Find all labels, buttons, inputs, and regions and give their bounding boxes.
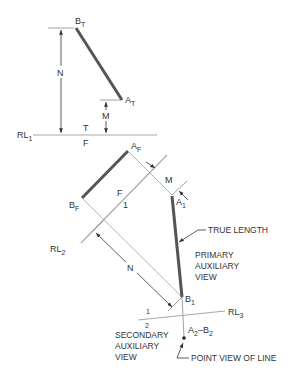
secondary-view-label-1: SECONDARY xyxy=(115,330,169,340)
extension-line-rl2 xyxy=(92,220,104,232)
rl1-label: RL1 xyxy=(17,130,33,142)
rl3-label: RL3 xyxy=(228,307,244,319)
extension-line-b1 xyxy=(168,297,182,311)
point-at-label: AT xyxy=(125,95,136,107)
point-view-dot xyxy=(182,336,186,340)
secondary-view-label-3: VIEW xyxy=(115,352,137,362)
primary-view-label-2: AUXILIARY xyxy=(195,261,240,271)
dimension-n-label: N xyxy=(57,68,64,78)
point-a1-label: A1 xyxy=(176,197,186,209)
auxiliary-view-diagram: N M BT AT RL1 T F AF BF RL2 F 1 M N A1 B xyxy=(0,0,291,377)
primary-view-label-1: PRIMARY xyxy=(195,250,234,260)
extension-line-a1 xyxy=(172,181,187,195)
point-af-label: AF xyxy=(131,141,141,153)
top-view: N M BT AT xyxy=(48,16,136,133)
dimension-m-aux-label: M xyxy=(165,175,173,185)
dimension-m-label: M xyxy=(102,111,110,121)
line-ab-true-length xyxy=(172,196,182,297)
point-a2b2-label: A2–B2 xyxy=(188,325,213,337)
rl2-above-label: F xyxy=(117,188,123,198)
projector-b xyxy=(82,198,182,297)
point-b1-label: B1 xyxy=(185,294,195,306)
rl1-above-label: T xyxy=(83,123,89,133)
point-bf-label: BF xyxy=(69,200,79,212)
projector-secondary xyxy=(182,297,184,337)
point-view-leader xyxy=(177,343,189,358)
point-view-label: POINT VIEW OF LINE xyxy=(191,353,277,363)
rl3-below-label: 2 xyxy=(145,322,149,329)
true-length-leader xyxy=(179,230,206,242)
dimension-n-aux-label: N xyxy=(127,263,134,273)
point-bt-label: BT xyxy=(75,16,86,28)
dimension-m-aux-arrow1 xyxy=(146,162,155,168)
secondary-auxiliary-view: A2–B2 POINT VIEW OF LINE SECONDARY AUXIL… xyxy=(115,325,277,363)
rl2-label: RL2 xyxy=(50,244,66,256)
front-view: AF BF xyxy=(69,141,141,212)
rl2-below-label: 1 xyxy=(123,200,128,210)
secondary-view-label-2: AUXILIARY xyxy=(115,341,160,351)
true-length-label: TRUE LENGTH xyxy=(208,225,268,235)
primary-view-label-3: VIEW xyxy=(195,272,217,282)
rl3-above-label: 1 xyxy=(146,308,150,315)
line-ab-top xyxy=(76,28,122,100)
primary-auxiliary-view: A1 B1 TRUE LENGTH PRIMARY AUXILIARY VIEW xyxy=(172,196,268,306)
rl1-below-label: F xyxy=(83,138,89,148)
